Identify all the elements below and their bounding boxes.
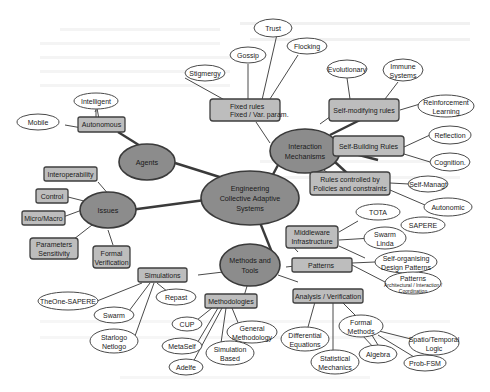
hub-agents[interactable]: Agents: [119, 144, 175, 180]
node-fixed-rules[interactable]: Fixed rules Fixed / Var. param.: [210, 99, 289, 121]
leaf-reflection[interactable]: Reflection: [429, 126, 471, 144]
hub-interaction-label-1: Interaction: [288, 142, 322, 151]
leaf-patterns-architectural[interactable]: Patterns Architectural / Interaction / C…: [384, 272, 443, 294]
leaf-intelligent[interactable]: Intelligent: [74, 93, 118, 109]
policies-label-1: Rules controlled by: [320, 176, 380, 184]
leaf-trust[interactable]: Trust: [254, 19, 292, 37]
leaf-theone-sapere[interactable]: TheOne-SAPERE: [38, 292, 98, 310]
self-modifying-label: Self-modifying rules: [333, 107, 395, 115]
swarm-label: Swarm: [103, 312, 125, 319]
leaf-simulation-based[interactable]: Simulation Based: [206, 341, 254, 365]
leaf-sapere[interactable]: SAPERE: [401, 217, 445, 233]
node-patterns[interactable]: Patterns: [292, 258, 352, 272]
parameters-label-1: Parameters: [36, 241, 73, 248]
node-parameters-sensitivity[interactable]: Parameters Sensitivity: [30, 238, 78, 259]
simulations-label: Simulations: [144, 272, 181, 279]
hub-methods-label-2: Tools: [242, 266, 259, 275]
leaf-self-managt[interactable]: Self-Managt: [408, 176, 448, 192]
differential-label-1: Differential: [288, 332, 322, 339]
metaself-label: MetaSelf: [168, 343, 196, 350]
leaf-spatio-temporal-logic[interactable]: Spatio/Temporal Logic: [409, 331, 460, 355]
patterns-arch-label-3: Coordination: [399, 288, 428, 294]
leaf-repast[interactable]: Repast: [156, 289, 196, 305]
differential-label-2: Equations: [289, 341, 321, 349]
leaf-formal-methods[interactable]: Formal Methods: [339, 315, 383, 337]
leaf-flocking[interactable]: Flocking: [287, 38, 327, 54]
hub-interaction-label-2: Mechanisms: [285, 152, 326, 161]
spatio-label-2: Logic: [426, 345, 443, 353]
node-middleware-infrastructure[interactable]: Middleware Infrastructure: [286, 226, 338, 248]
starlogo-label-1: Starlogo: [101, 334, 127, 342]
policies-label-2: Policies and constraints: [313, 185, 387, 192]
methodologies-label: Methodologies: [208, 298, 254, 306]
node-simulations[interactable]: Simulations: [138, 268, 187, 282]
interoperability-label: Interoperability: [48, 171, 94, 179]
leaf-cognition[interactable]: Cognition.: [430, 153, 470, 171]
immune-label-2: Systems: [390, 72, 417, 80]
mobile-label: Mobile: [28, 119, 49, 126]
fixed-rules-label-2: Fixed / Var. param.: [230, 111, 289, 119]
root-label-line3: Systems: [236, 204, 264, 213]
node-autonomous[interactable]: Autonomous: [78, 117, 125, 132]
node-self-building-rules[interactable]: Self-Building Rules: [333, 136, 404, 156]
flocking-label: Flocking: [294, 43, 320, 51]
reinforcement-label-1: Reinforcement: [423, 99, 469, 106]
prob-fsm-label: Prob-FSM: [409, 360, 441, 367]
leaf-stigmergy[interactable]: Stigmergy: [185, 65, 225, 81]
reinforcement-label-2: Learning: [432, 108, 459, 116]
node-rules-policies[interactable]: Rules controlled by Policies and constra…: [310, 172, 390, 195]
leaf-cup[interactable]: CUP: [172, 317, 202, 331]
leaf-algebra[interactable]: Algebra: [359, 345, 397, 363]
fixed-rules-label-1: Fixed rules: [230, 103, 265, 110]
general-label-1: General: [240, 325, 265, 332]
root-label-line2: Collective Adaptive: [220, 194, 281, 203]
hub-methods-and-tools[interactable]: Methods and Tools: [220, 244, 280, 286]
control-label: Control: [41, 193, 64, 200]
leaf-metaself[interactable]: MetaSelf: [162, 338, 202, 354]
node-interoperability[interactable]: Interoperability: [44, 167, 97, 181]
root-node[interactable]: Engineering Collective Adaptive Systems: [201, 171, 299, 225]
leaf-gossip[interactable]: Gossip: [230, 47, 266, 63]
cognition-label: Cognition.: [434, 159, 466, 167]
node-self-modifying-rules[interactable]: Self-modifying rules: [329, 99, 399, 121]
leaf-statistical-mechanics[interactable]: Statistical Mechanics: [311, 350, 359, 374]
leaf-swarm[interactable]: Swarm: [94, 307, 134, 323]
node-analysis-verification[interactable]: Analysis / Verification: [293, 289, 363, 303]
formal-methods-label-1: Formal: [350, 319, 372, 326]
leaf-differential-equations[interactable]: Differential Equations: [281, 327, 329, 351]
leaf-general-methodology[interactable]: General Methodology: [227, 321, 277, 343]
cup-label: CUP: [180, 321, 195, 328]
leaf-evolutionary[interactable]: Evolutionary: [327, 60, 367, 78]
gossip-label: Gossip: [237, 52, 259, 60]
immune-label-1: Immune: [390, 63, 415, 70]
hub-issues-label: Issues: [98, 206, 119, 215]
swarm-linda-label-2: Linda: [376, 240, 393, 247]
hub-interaction-mechanisms[interactable]: Interaction Mechanisms: [270, 129, 340, 173]
node-formal-verification[interactable]: Formal Verification: [93, 246, 130, 268]
hub-agents-label: Agents: [136, 158, 159, 167]
leaf-reinforcement-learning[interactable]: Reinforcement Learning: [418, 95, 474, 117]
sapere-label: SAPERE: [409, 222, 438, 229]
patterns-arch-label-1: Patterns: [400, 275, 427, 282]
leaf-tota[interactable]: TOTA: [356, 204, 400, 220]
node-methodologies[interactable]: Methodologies: [205, 294, 257, 308]
leaf-autonomic[interactable]: Autonomic: [424, 198, 472, 216]
stigmergy-label: Stigmergy: [189, 70, 221, 78]
hub-issues[interactable]: Issues: [80, 192, 136, 228]
trust-label: Trust: [265, 25, 281, 32]
middleware-label-2: Infrastructure: [291, 238, 332, 245]
evolutionary-label: Evolutionary: [328, 66, 367, 74]
node-micro-macro[interactable]: Micro/Macro: [22, 211, 65, 225]
leaf-self-organising-design-patterns[interactable]: Self-organising Design Patterns: [375, 251, 437, 273]
leaf-starlogo-netlogo[interactable]: Starlogo Netlogo: [90, 329, 138, 353]
leaf-immune-systems[interactable]: Immune Systems: [383, 59, 423, 81]
middleware-label-1: Middleware: [294, 229, 330, 236]
leaf-mobile[interactable]: Mobile: [17, 114, 59, 130]
simulation-based-label-2: Based: [220, 355, 240, 362]
leaf-prob-fsm[interactable]: Prob-FSM: [404, 355, 446, 371]
node-control[interactable]: Control: [36, 189, 68, 203]
parameters-label-2: Sensitivity: [38, 250, 70, 258]
leaf-swarm-linda[interactable]: Swarm Linda: [364, 227, 406, 249]
leaf-adelfe[interactable]: Adelfe: [169, 359, 203, 375]
formal-verification-label-2: Verification: [94, 259, 128, 266]
